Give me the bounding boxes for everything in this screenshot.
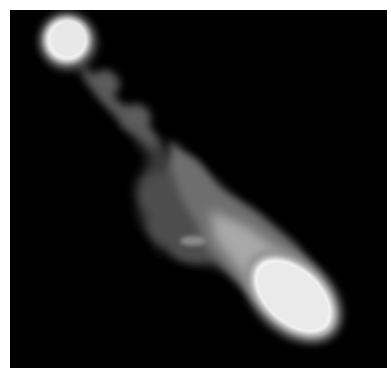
small-inclusion: [180, 236, 206, 246]
neck: [78, 60, 160, 150]
top-left-head: [40, 13, 94, 67]
image-frame: Grayscale intensity map of an elongated …: [10, 10, 387, 368]
blob-intensity-image: [10, 10, 387, 368]
